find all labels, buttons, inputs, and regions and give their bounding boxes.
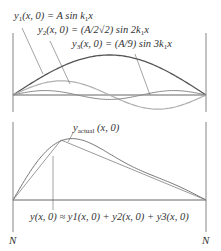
y-actual-subscript: actual [78, 127, 95, 135]
y-actual-args: (x, 0) [94, 122, 119, 133]
y-sum-curve [13, 139, 206, 200]
y3-expression: (x, 0) = (A/9) sin 3k [80, 38, 163, 49]
y2-expression: (x, 0) = (A/2√2) sin 2k [46, 24, 141, 35]
y3-tail: x [167, 38, 172, 49]
y1-tail: x [88, 10, 93, 21]
y2-tail: x [144, 24, 149, 35]
y-sum-label: y(x, 0) ≈ y1(x, 0) + y2(x, 0) + y3(x, 0) [30, 212, 189, 223]
y1-label: y1(x, 0) = A sin k1x [14, 11, 93, 23]
node-right-label: N [202, 234, 209, 246]
y-actual-triangle [13, 140, 206, 200]
y1-expression: (x, 0) = A sin k [22, 10, 85, 21]
y1-curve [13, 55, 206, 95]
y2-label: y2(x, 0) = (A/2√2) sin 2k1x [38, 25, 149, 37]
node-left-label: N [9, 234, 16, 246]
y-actual-label: yactual (x, 0) [73, 123, 119, 135]
y3-label: y3(x, 0) = (A/9) sin 3k1x [72, 39, 172, 51]
y2-leader-line [50, 41, 70, 84]
